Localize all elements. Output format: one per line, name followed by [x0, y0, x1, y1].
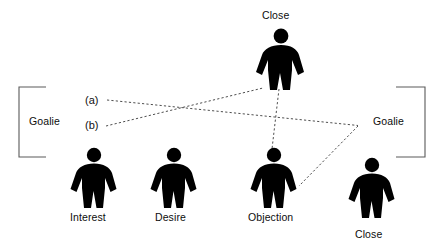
- figure-objection: [251, 148, 297, 208]
- connector-label-b: (b): [85, 119, 98, 131]
- figure-interest: [71, 148, 117, 208]
- figure-label-bottom-close: Close: [355, 228, 382, 240]
- figure-label-top-close: Close: [262, 9, 289, 21]
- connector-line-close-to-objection: [272, 89, 279, 149]
- right-goalie-label: Goalie: [373, 115, 404, 127]
- left-goalie-label: Goalie: [29, 115, 60, 127]
- figure-label-interest: Interest: [70, 211, 106, 223]
- connector-line-apex-to-objection: [299, 126, 358, 186]
- figure-desire: [151, 148, 197, 208]
- figure-label-objection: Objection: [248, 211, 293, 223]
- connector-line-b: [106, 88, 263, 126]
- connector-line-a: [107, 100, 358, 126]
- diagram-canvas: Goalie Goalie Close Interest Desire Obje…: [0, 0, 443, 247]
- figure-label-desire: Desire: [155, 211, 186, 223]
- connector-label-a: (a): [85, 94, 98, 106]
- figure-bottom-close: [349, 158, 395, 218]
- connector-lines: [106, 88, 358, 186]
- figure-top-close: [256, 29, 304, 90]
